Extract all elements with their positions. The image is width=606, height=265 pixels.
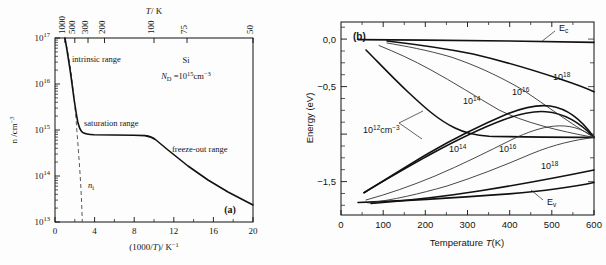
panel-b-ytick-minus05: −0,5: [317, 81, 336, 92]
semiconductor-figure: T/ K 1000 500 300 200 100 75 50: [0, 0, 606, 265]
panel-b-label-n16-lower: 1016: [499, 143, 517, 154]
panel-a-annotation-ni: ni: [88, 180, 94, 191]
panel-b-label-n18-upper: 1018: [553, 71, 571, 82]
panel-a-ytick-1e13: 1013: [35, 215, 51, 227]
panel-b-curve-ev: [358, 183, 594, 203]
panel-a-top-tick-1000: 1000: [57, 16, 67, 35]
panel-b-leader-n12-lower: [399, 123, 422, 139]
panel-b-y-axis-title: Energy (eV): [304, 93, 315, 144]
panel-a-top-tick-50: 50: [245, 25, 255, 35]
panel-a-annotation-material: Si: [182, 55, 190, 65]
panel-b-curve-n18-lower: [371, 170, 594, 204]
panel-a-y-ticks: 1013 1014 1015 1016 1017: [35, 31, 61, 227]
panel-a-top-tick-75: 75: [179, 25, 189, 35]
panel-b-plot-frame: [341, 22, 594, 215]
panel-b-label: (b): [353, 31, 366, 42]
panel-a-xtick-4: 4: [92, 226, 97, 236]
panel-b-ytick-minus15: −1,5: [317, 176, 336, 187]
panel-b-leader-ec: [541, 31, 555, 42]
panel-a-x-axis-title: (1000/T)/ K−1: [129, 241, 179, 252]
panel-b-xtick-300: 300: [460, 219, 476, 230]
panel-b-label-n12: 1012cm−3: [363, 124, 400, 135]
panel-a-ytick-1e14: 1014: [35, 169, 51, 181]
panel-a-top-tick-500: 500: [67, 20, 77, 34]
panel-a-top-ticks: 1000 500 300 200 100 75 50: [57, 16, 255, 44]
panel-a-xtick-12: 12: [169, 226, 178, 236]
panel-a-top-tick-200: 200: [97, 20, 107, 34]
panel-a-top-tick-100: 100: [146, 20, 156, 34]
panel-a-top-tick-300: 300: [80, 20, 90, 34]
panel-a-xtick-20: 20: [249, 226, 259, 236]
panel-b-xtick-200: 200: [417, 219, 433, 230]
panel-b-label-ev: Ev: [547, 197, 557, 208]
panel-b-xtick-100: 100: [375, 219, 391, 230]
panel-a-plot-frame: [55, 38, 253, 222]
panel-a-top-axis-title: T/ K: [146, 6, 163, 16]
panel-a-y-axis-title: n /cm−3: [8, 116, 19, 143]
panel-a-xtick-8: 8: [132, 226, 137, 236]
panel-a-xtick-0: 0: [53, 226, 58, 236]
panel-b-label-n14-upper: 1014: [463, 95, 481, 106]
panel-a-annotation-intrinsic: intrinsic range: [72, 54, 121, 64]
panel-b-fermi-level: 0 100 200 300 400 500 600 Temperature T(…: [303, 0, 606, 265]
panel-b-xtick-500: 500: [544, 219, 560, 230]
panel-b-label-n14-lower: 1014: [449, 143, 467, 154]
panel-b-xtick-0: 0: [338, 219, 343, 230]
panel-b-label-ec: Ec: [559, 23, 569, 34]
panel-b-curve-n12-lower-main: [364, 106, 594, 193]
panel-b-xtick-400: 400: [502, 219, 518, 230]
panel-a-annotation-freezeout: freeze-out range: [172, 144, 228, 154]
panel-b-label-n16-upper: 1016: [512, 86, 530, 97]
panel-a-bottom-ticks: 0 4 8 12 16 20: [53, 217, 258, 236]
panel-a-svg: T/ K 1000 500 300 200 100 75 50: [0, 0, 303, 265]
panel-a-ytick-1e17: 1017: [35, 31, 51, 43]
panel-a-curve-ni: [65, 38, 82, 222]
panel-b-leader-n12-upper: [399, 111, 423, 123]
panel-a-xtick-16: 16: [209, 226, 219, 236]
panel-b-svg: 0 100 200 300 400 500 600 Temperature T(…: [303, 0, 606, 265]
panel-b-curve-n12-upper: [366, 50, 594, 137]
panel-a-ytick-1e16: 1016: [35, 77, 51, 89]
panel-b-label-n18-lower: 1018: [541, 160, 559, 171]
panel-b-ytick-0: 0,0: [323, 34, 336, 45]
panel-b-curve-n16-upper: [387, 43, 594, 137]
panel-a-ytick-1e15: 1015: [35, 123, 51, 135]
panel-a-label: (a): [224, 204, 236, 216]
panel-a-carrier-concentration: T/ K 1000 500 300 200 100 75 50: [0, 0, 303, 265]
panel-a-annotation-doping: ND =1015cm−3: [160, 70, 211, 82]
panel-b-x-axis-title: Temperature T(K): [430, 237, 504, 248]
panel-a-annotation-saturation: saturation range: [84, 118, 139, 128]
panel-b-xtick-600: 600: [586, 219, 602, 230]
